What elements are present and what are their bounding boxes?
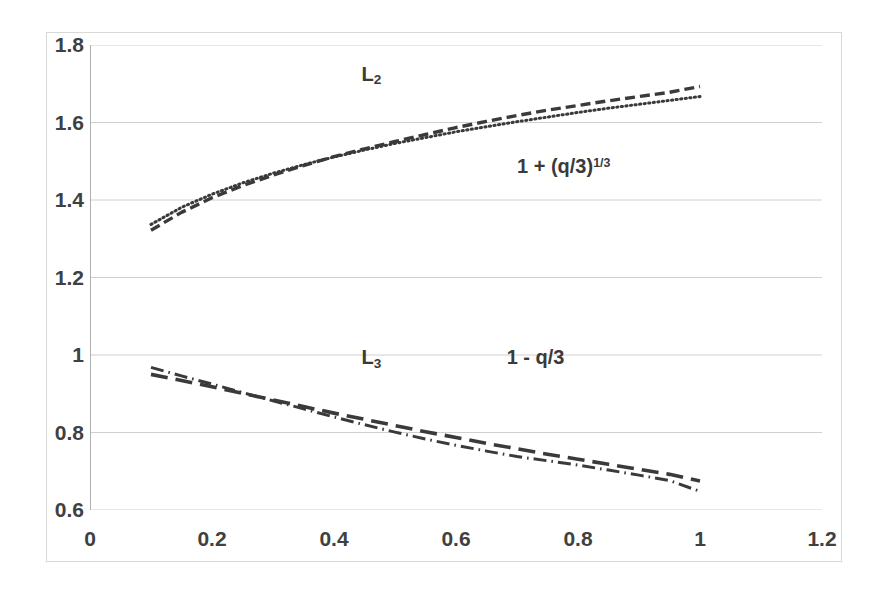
L3-label: L3	[361, 347, 381, 367]
x-tick-label: 1	[694, 528, 706, 549]
lower-formula-label: 1 - q/3	[507, 347, 565, 367]
x-axis-tick-labels: 00.20.40.60.811.2	[0, 0, 883, 590]
x-tick-label: 0.4	[319, 528, 348, 549]
L2-label: L2	[361, 64, 381, 84]
chart-container: 1.81.61.41.210.80.6 00.20.40.60.811.2 L2…	[0, 0, 883, 590]
x-tick-label: 0.8	[563, 528, 592, 549]
x-tick-label: 0.2	[197, 528, 226, 549]
annotation-subscript: 2	[374, 72, 382, 87]
x-tick-label: 1.2	[807, 528, 836, 549]
annotation-subscript: 3	[374, 356, 382, 371]
upper-formula-label: 1 + (q/3)1/3	[517, 156, 610, 176]
x-tick-label: 0	[84, 528, 96, 549]
annotation-superscript: 1/3	[593, 156, 610, 170]
x-tick-label: 0.6	[441, 528, 470, 549]
